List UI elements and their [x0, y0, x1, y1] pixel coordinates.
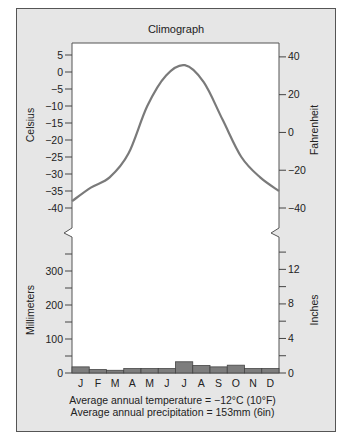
precipitation-bar — [89, 370, 106, 373]
month-label: O — [232, 377, 240, 389]
month-label: D — [267, 377, 275, 389]
fahrenheit-tick-label: −40 — [288, 202, 306, 214]
celsius-tick-label: 5 — [57, 49, 63, 61]
inch-axis-label: Inches — [308, 295, 320, 326]
inch-tick-label: 12 — [288, 263, 300, 275]
millimeter-axis-label: Millimeters — [24, 285, 36, 335]
month-label: N — [249, 377, 257, 389]
precipitation-bar — [262, 369, 279, 373]
inch-tick-label: 4 — [288, 332, 294, 344]
celsius-tick-label: 0 — [57, 66, 63, 78]
precipitation-bar — [176, 362, 193, 373]
precipitation-bar — [210, 367, 227, 373]
month-label: J — [182, 377, 187, 389]
month-label: A — [198, 377, 205, 389]
precipitation-bar — [245, 369, 262, 373]
month-label: J — [78, 377, 83, 389]
month-label: F — [95, 377, 101, 389]
millimeter-tick-label: 300 — [45, 265, 63, 277]
month-label: S — [215, 377, 222, 389]
month-label: A — [129, 377, 136, 389]
celsius-tick-label: −25 — [45, 151, 63, 163]
plot-area — [64, 43, 279, 373]
celsius-tick-label: −5 — [51, 83, 63, 95]
fahrenheit-tick-label: −20 — [288, 164, 306, 176]
fahrenheit-axis-label: Fahrenheit — [308, 105, 320, 155]
millimeter-tick-label: 0 — [57, 367, 63, 379]
annual-precipitation-text: Average annual precipitation = 153mm (6i… — [0, 406, 345, 418]
precipitation-bar — [158, 369, 175, 373]
celsius-tick-label: −20 — [45, 134, 63, 146]
millimeter-tick-label: 200 — [45, 299, 63, 311]
month-label: J — [164, 377, 169, 389]
precipitation-bar — [227, 365, 244, 373]
fahrenheit-tick-label: 20 — [288, 88, 300, 100]
month-label: M — [145, 377, 154, 389]
celsius-tick-label: −15 — [45, 117, 63, 129]
celsius-tick-label: −30 — [45, 168, 63, 180]
inch-tick-label: 0 — [288, 367, 294, 379]
celsius-tick-label: −10 — [45, 100, 63, 112]
climograph-chart: Climograph50−5−10−15−20−25−30−35-40Celsi… — [0, 0, 345, 443]
chart-title: Climograph — [148, 23, 204, 35]
celsius-tick-label: -40 — [48, 202, 63, 214]
precipitation-bar — [107, 370, 124, 373]
precipitation-bar — [193, 366, 210, 373]
fahrenheit-tick-label: 0 — [288, 126, 294, 138]
annual-temperature-text: Average annual temperature = −12°C (10°F… — [0, 394, 345, 406]
fahrenheit-tick-label: 40 — [288, 50, 300, 62]
celsius-axis-label: Celsius — [24, 108, 36, 142]
month-label: M — [111, 377, 120, 389]
precipitation-bar — [72, 367, 89, 373]
celsius-tick-label: −35 — [45, 185, 63, 197]
precipitation-bar — [141, 369, 158, 373]
precipitation-bar — [124, 369, 141, 373]
inch-tick-label: 8 — [288, 297, 294, 309]
millimeter-tick-label: 100 — [45, 333, 63, 345]
